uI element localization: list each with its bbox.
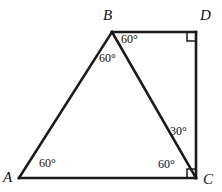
angle-label-bca: 60° <box>158 158 175 170</box>
geometry-canvas <box>0 0 222 192</box>
vertex-label-c: C <box>203 172 213 187</box>
vertex-label-a: A <box>3 170 12 185</box>
angle-label-dbc: 60° <box>121 33 138 45</box>
edge-bc-diagonal <box>112 32 196 178</box>
geometry-figure: A B C D 60° 60° 60° 30° 60° <box>0 0 222 192</box>
vertex-label-d: D <box>200 8 211 23</box>
vertex-label-b: B <box>103 8 112 23</box>
right-angle-marker-d <box>187 32 196 41</box>
angle-label-bcd: 30° <box>170 125 187 137</box>
angle-label-abc: 60° <box>99 52 116 64</box>
angle-label-a: 60° <box>39 157 56 169</box>
